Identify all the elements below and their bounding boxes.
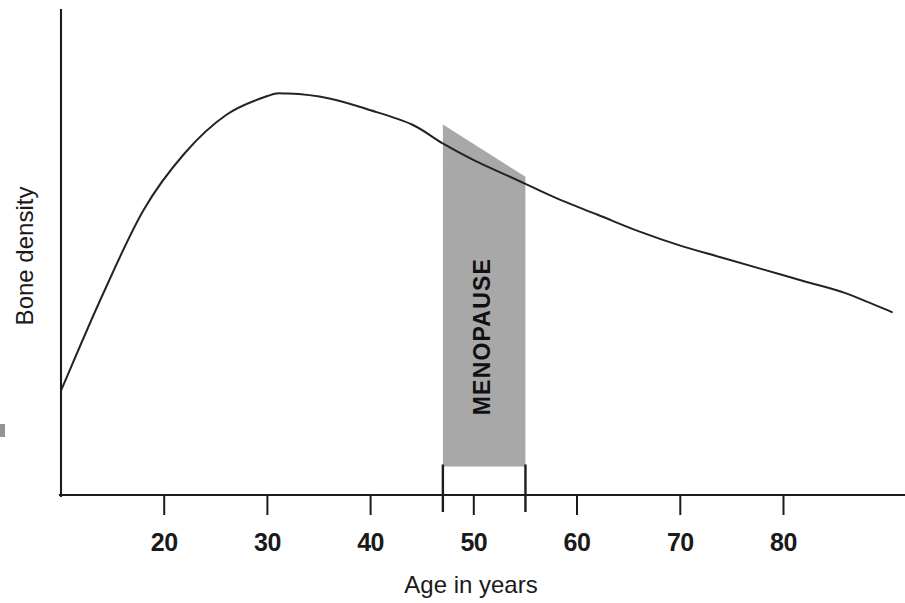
menopause-band-label: MENOPAUSE <box>469 258 495 415</box>
x-tick-label-70: 70 <box>667 528 694 556</box>
x-tick-label-40: 40 <box>357 528 384 556</box>
x-tick-label-80: 80 <box>770 528 797 556</box>
x-tick-label-30: 30 <box>254 528 281 556</box>
x-tick-label-50: 50 <box>460 528 487 556</box>
chart-plot-area: 20 30 40 50 60 70 80 Age in years Bone d… <box>0 0 905 603</box>
bone-density-chart-figure: 20 30 40 50 60 70 80 Age in years Bone d… <box>0 0 905 603</box>
y-axis-title: Bone density <box>11 187 38 326</box>
x-tick-label-20: 20 <box>151 528 178 556</box>
x-axis-title: Age in years <box>404 571 537 598</box>
x-axis-ticks <box>164 495 783 515</box>
x-tick-label-60: 60 <box>564 528 591 556</box>
